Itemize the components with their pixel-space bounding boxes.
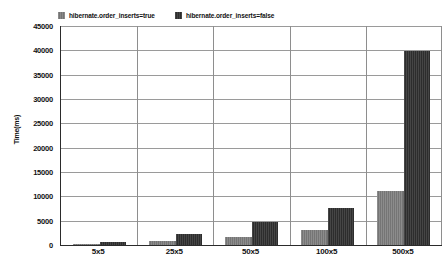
y-axis-tick-label: 20000 [33,143,53,152]
bar [225,237,252,245]
legend-label: hibernate.order_inserts=false [186,12,274,19]
y-axis-tick-label: 40000 [33,46,53,55]
y-axis-tick-labels: 4500040000350003000025000200001500010000… [0,0,57,269]
x-axis-tick-label: 500x5 [365,247,441,259]
bar [176,234,202,245]
y-axis-tick-label: 30000 [33,95,53,104]
chart-legend: hibernate.order_inserts=true hibernate.o… [58,9,274,21]
bar-group [366,26,442,245]
legend-swatch-icon [175,12,182,19]
bar [73,244,100,245]
bar [252,222,278,245]
legend-swatch-icon [58,12,65,19]
y-axis-tick-label: 15000 [33,168,53,177]
bar [404,51,430,245]
bar [149,241,176,245]
y-axis-tick-label: 45000 [33,22,53,31]
bar-group [290,26,366,245]
bar-chart: hibernate.order_inserts=true hibernate.o… [0,0,445,269]
x-axis-tick-label: 25x5 [136,247,212,259]
y-axis-tick-label: 35000 [33,70,53,79]
bar [328,208,354,245]
plot-area [60,26,442,246]
bar-group [213,26,289,245]
x-axis-tick-label: 50x5 [212,247,288,259]
bar-groups [61,26,442,245]
legend-item-order-inserts-true: hibernate.order_inserts=true [58,12,155,19]
x-axis-tick-labels: 5x525x550x5100x5500x5 [60,247,441,259]
bar [377,191,404,245]
y-axis-tick-label: 10000 [33,192,53,201]
x-axis-tick-label: 5x5 [60,247,136,259]
y-axis-tick-label: 5000 [37,216,53,225]
x-axis-tick-label: 100x5 [289,247,365,259]
bar [301,230,328,245]
y-axis-tick-label: 25000 [33,119,53,128]
y-axis-tick-label: 0 [49,241,53,250]
bar-group [61,26,137,245]
bar [100,242,126,245]
bar-group [137,26,213,245]
legend-item-order-inserts-false: hibernate.order_inserts=false [175,12,274,19]
legend-label: hibernate.order_inserts=true [69,12,155,19]
